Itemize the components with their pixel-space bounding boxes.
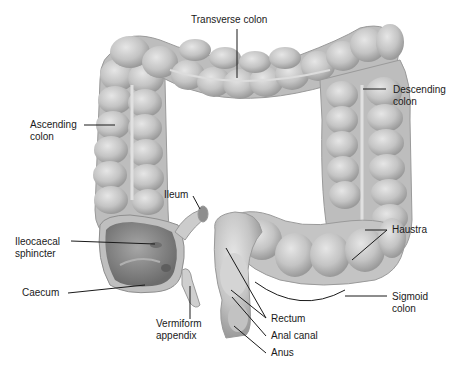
label-rectum: Rectum <box>271 313 305 325</box>
caecum-shape <box>99 215 184 293</box>
label-anal-canal: Anal canal <box>271 330 318 342</box>
appendix-shape <box>182 269 200 307</box>
label-vermiform-appendix: Vermiform appendix <box>156 318 202 341</box>
label-ileum: Ileum <box>164 189 188 201</box>
label-haustra: Haustra <box>392 224 427 236</box>
label-ascending-colon: Ascending colon <box>30 119 77 142</box>
label-descending-colon: Descending colon <box>393 84 446 107</box>
rectum-shape <box>214 212 262 338</box>
label-sigmoid-colon: Sigmoid colon <box>392 291 428 314</box>
label-ileocaecal-sphincter: Ileocaecal sphincter <box>15 236 60 259</box>
label-transverse-colon: Transverse colon <box>191 14 267 26</box>
colon-diagram: Transverse colon Descending colon Ascend… <box>0 0 462 375</box>
ileum-shape <box>175 206 208 240</box>
label-caecum: Caecum <box>22 287 59 299</box>
label-anus: Anus <box>271 347 294 359</box>
colon-illustration <box>0 0 462 375</box>
